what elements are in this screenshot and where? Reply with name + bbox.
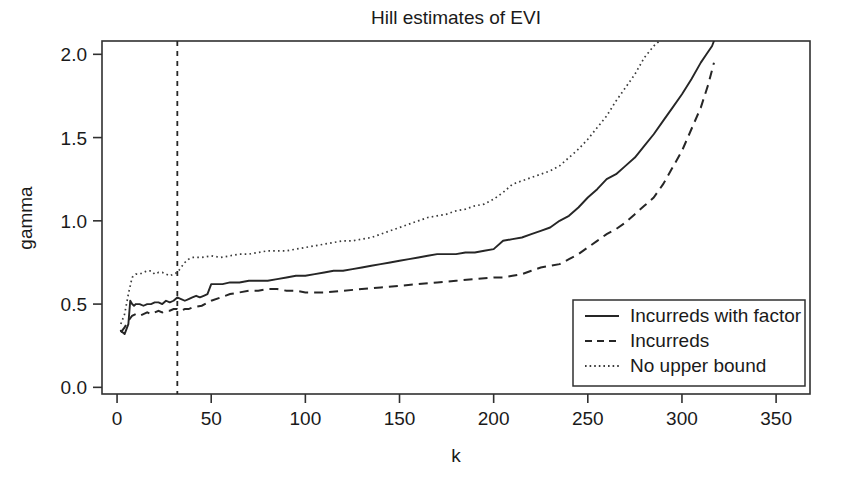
y-tick-label: 2.0 — [61, 44, 87, 65]
page-title: Hill estimates of EVI — [371, 7, 541, 28]
x-tick-label: 300 — [666, 408, 698, 429]
x-tick-label: 50 — [201, 408, 222, 429]
y-axis-title: gamma — [15, 186, 36, 250]
x-tick-label: 0 — [112, 408, 123, 429]
x-tick-label: 350 — [760, 408, 792, 429]
legend-label: Incurreds with factor — [630, 305, 802, 326]
x-axis-title: k — [451, 445, 461, 466]
y-tick-label: 0.0 — [61, 377, 87, 398]
chart-figure: Hill estimates of EVI 0.00.51.01.52.0 05… — [0, 0, 848, 477]
y-tick-label: 1.5 — [61, 128, 87, 149]
legend-label: No upper bound — [630, 355, 766, 376]
chart-legend[interactable]: Incurreds with factorIncurredsNo upper b… — [573, 300, 805, 386]
x-tick-label: 200 — [478, 408, 510, 429]
x-tick-label: 150 — [384, 408, 416, 429]
y-tick-label: 0.5 — [61, 294, 87, 315]
x-tick-label: 100 — [290, 408, 322, 429]
y-tick-label: 1.0 — [61, 211, 87, 232]
plot-background — [0, 0, 848, 477]
x-tick-label: 250 — [572, 408, 604, 429]
hill-estimates-plot: Hill estimates of EVI 0.00.51.01.52.0 05… — [0, 0, 848, 477]
legend-label: Incurreds — [630, 330, 709, 351]
